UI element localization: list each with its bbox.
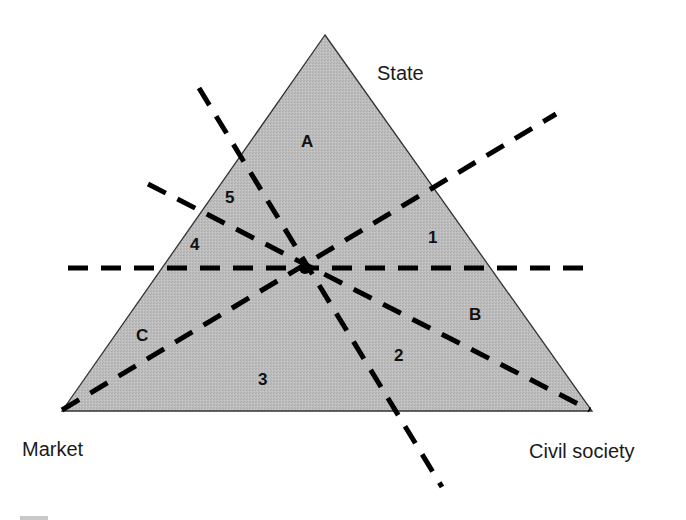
center-intersection: [299, 262, 311, 274]
welfare-triangle-diagram: State Market Civil society A B C 1 2 3 4…: [0, 0, 686, 520]
region-label-2: 2: [394, 346, 403, 365]
vertex-label-civil-society: Civil society: [529, 440, 635, 462]
vertex-label-market: Market: [22, 438, 84, 460]
region-label-4: 4: [190, 235, 200, 254]
region-label-C: C: [136, 326, 148, 345]
region-label-B: B: [469, 305, 481, 324]
corner-mark: [20, 516, 48, 520]
region-label-A: A: [301, 132, 313, 151]
region-label-1: 1: [428, 228, 437, 247]
vertex-label-state: State: [377, 62, 424, 84]
region-label-5: 5: [225, 188, 234, 207]
region-label-3: 3: [258, 370, 267, 389]
triangle: [62, 35, 592, 411]
